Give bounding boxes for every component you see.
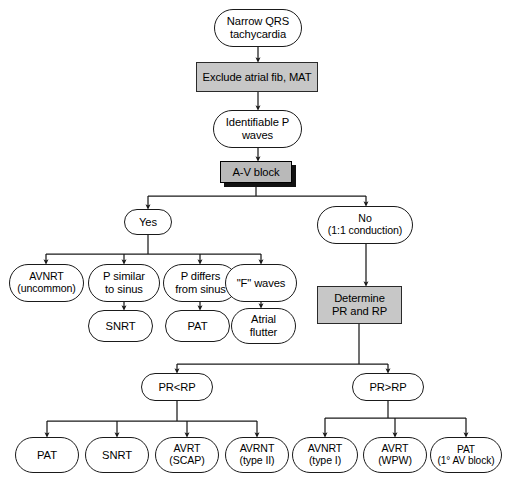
node-identifiable-p-waves[interactable]: Identifiable P waves [213, 110, 302, 148]
node-av-block[interactable]: A-V block [220, 161, 292, 183]
node-avrt-wpw[interactable]: AVRT (WPW) [363, 437, 427, 473]
node-determine-pr-and-rp[interactable]: Determine PR and RP [317, 286, 402, 324]
node-snrt-lower[interactable]: SNRT [85, 437, 149, 473]
node-pr-greater-than-rp[interactable]: PR>RP [352, 373, 424, 401]
node-snrt-upper[interactable]: SNRT [88, 310, 153, 342]
node-avrt-scap[interactable]: AVRT (SCAP) [155, 437, 219, 473]
node-f-waves[interactable]: "F" waves [225, 264, 297, 302]
flowchart-canvas: Narrow QRS tachycardia Exclude atrial fi… [0, 0, 505, 481]
node-no-1to1-conduction[interactable]: No (1:1 conduction) [317, 206, 413, 244]
node-pr-less-than-rp[interactable]: PR<RP [141, 373, 213, 401]
node-pat-upper[interactable]: PAT [165, 310, 230, 342]
node-avnrt-uncommon[interactable]: AVNRT (uncommon) [9, 264, 84, 302]
node-p-similar-to-sinus[interactable]: P similar to sinus [88, 264, 160, 302]
node-atrial-flutter[interactable]: Atrial flutter [231, 308, 296, 344]
node-yes[interactable]: Yes [124, 209, 172, 235]
node-pat-lower[interactable]: PAT [15, 437, 79, 473]
node-pat-1-av-block[interactable]: PAT (1° AV block) [430, 437, 502, 473]
node-avnrt-type-1[interactable]: AVNRT (type I) [292, 437, 358, 473]
node-exclude-atrial-fib[interactable]: Exclude atrial fib, MAT [196, 62, 318, 92]
node-start[interactable]: Narrow QRS tachycardia [214, 9, 302, 47]
node-avrnt-type-2[interactable]: AVRNT (type II) [225, 437, 289, 473]
